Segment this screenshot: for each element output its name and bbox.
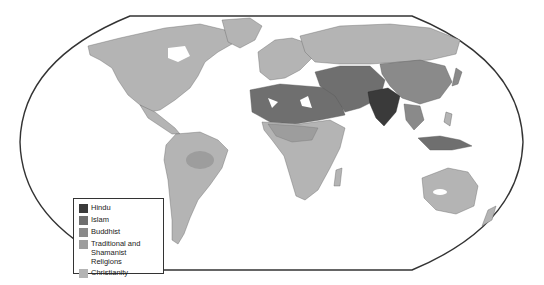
legend-item-buddhist: Buddhist xyxy=(79,227,159,237)
legend-swatch-hindu xyxy=(79,204,88,213)
legend-label: Buddhist xyxy=(91,227,120,236)
legend-item-islam: Islam xyxy=(79,215,159,225)
legend-label: Islam xyxy=(91,215,109,224)
legend-label: Traditional and Shamanist Religions xyxy=(91,239,159,266)
legend-item-christianity: Christianity xyxy=(79,268,159,278)
legend-swatch-christianity xyxy=(79,269,88,278)
region-amazon-traditional xyxy=(186,151,214,169)
legend-swatch-islam xyxy=(79,216,88,225)
legend-label: Christianity xyxy=(91,268,128,277)
legend-swatch-traditional xyxy=(79,240,88,249)
legend-item-traditional: Traditional and Shamanist Religions xyxy=(79,239,159,266)
legend-swatch-buddhist xyxy=(79,228,88,237)
legend-item-hindu: Hindu xyxy=(79,203,159,213)
legend-label: Hindu xyxy=(91,203,111,212)
map-legend: Hindu Islam Buddhist Traditional and Sha… xyxy=(73,198,164,274)
